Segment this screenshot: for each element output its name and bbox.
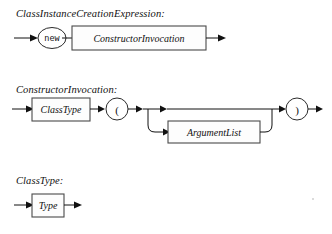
- nonterminal-classtype-label: ClassType: [41, 104, 82, 115]
- production-class-instance-creation-expression: ClassInstanceCreationExpression: new Con…: [0, 0, 332, 78]
- production-class-type: ClassType: Type: [0, 162, 332, 234]
- connector-arrowhead-3: [136, 106, 143, 113]
- exit-arrowhead-2: [316, 106, 323, 113]
- terminal-new-label: new: [44, 34, 60, 44]
- nonterminal-constructorinvocation-label: ConstructorInvocation: [93, 33, 184, 44]
- entry-arrowhead: [30, 35, 38, 42]
- production-constructor-invocation: ConstructorInvocation: ClassType (: [0, 78, 332, 162]
- syntax-diagram-page: ClassInstanceCreationExpression: new Con…: [0, 0, 332, 234]
- railroad-track-3: Type: [0, 162, 332, 234]
- railroad-track-1: new ConstructorInvocation: [0, 0, 332, 78]
- exit-arrowhead-3: [74, 202, 82, 209]
- branch-up-right-rail: [260, 109, 272, 132]
- nonterminal-argumentlist-label: ArgumentList: [186, 127, 241, 138]
- merge-arrowhead: [279, 106, 286, 113]
- bypass-arrowhead: [160, 106, 167, 113]
- exit-arrowhead-1: [218, 35, 226, 42]
- nonterminal-type-label: Type: [39, 200, 58, 211]
- branch-down-left-rail: [148, 109, 163, 132]
- railroad-track-2: ClassType ( ArgumentList: [0, 78, 332, 162]
- connector-arrowhead-2: [98, 106, 105, 113]
- terminal-open-paren-label: (: [115, 104, 119, 117]
- terminal-close-paren-label: ): [295, 104, 299, 117]
- page-speck-artifact: [312, 198, 314, 200]
